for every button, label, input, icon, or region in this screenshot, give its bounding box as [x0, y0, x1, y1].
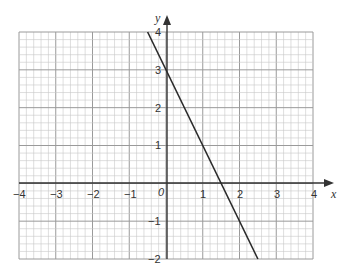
x-axis-arrow-icon [324, 179, 334, 187]
x-tick-label: 2 [237, 188, 243, 200]
x-axis-label: x [330, 187, 337, 201]
origin-label: 0 [158, 186, 165, 198]
y-tick-label: −2 [148, 253, 161, 265]
x-tick-label: −4 [13, 188, 26, 200]
x-tick-label: −1 [124, 188, 137, 200]
y-tick-label: −1 [148, 215, 161, 227]
y-tick-label: 4 [155, 26, 161, 38]
graph: x y −4 −3 −2 −1 0 1 2 3 4 4 3 2 1 −1 −2 [0, 0, 344, 275]
x-tick-label: −2 [87, 188, 100, 200]
y-tick-label: 1 [155, 139, 161, 151]
y-tick-label: 2 [155, 102, 161, 114]
y-tick-label: 3 [155, 64, 161, 76]
y-axis-label: y [154, 11, 161, 25]
x-tick-label: −3 [50, 188, 63, 200]
y-axis-arrow-icon [163, 15, 171, 25]
x-tick-label: 4 [311, 188, 317, 200]
grid [19, 32, 313, 259]
x-tick-label: 1 [200, 188, 206, 200]
x-tick-label: 3 [274, 188, 280, 200]
